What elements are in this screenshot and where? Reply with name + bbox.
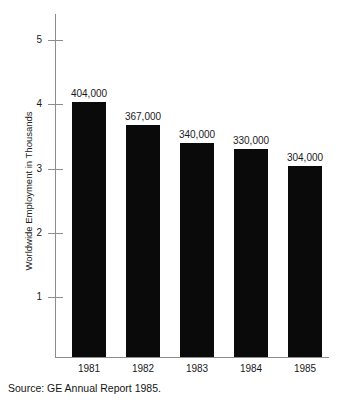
y-axis-tick-label: 1 — [12, 292, 42, 302]
y-axis-tick — [48, 104, 63, 105]
bar-value-label: 330,000 — [224, 135, 278, 146]
bar — [180, 143, 214, 357]
plot-area: 12345 404,000367,000340,000330,000304,00… — [0, 0, 344, 403]
source-note: Source: GE Annual Report 1985. — [8, 382, 161, 394]
bar-value-label: 304,000 — [278, 152, 332, 163]
bar — [72, 102, 106, 357]
bar-value-label: 404,000 — [62, 88, 116, 99]
y-axis-tick-label: 5 — [12, 35, 42, 45]
y-axis-tick — [48, 233, 63, 234]
y-axis-tick — [48, 40, 63, 41]
x-axis-tick-label: 1981 — [64, 363, 114, 374]
bar — [126, 125, 160, 357]
y-axis-tick — [48, 169, 63, 170]
bar-chart-figure: 12345 404,000367,000340,000330,000304,00… — [0, 0, 344, 403]
x-axis-line — [55, 357, 329, 358]
y-axis-line — [55, 14, 56, 358]
bar-value-label: 367,000 — [116, 111, 170, 122]
x-axis-tick-label: 1985 — [280, 363, 330, 374]
bar — [288, 166, 322, 357]
bar — [234, 149, 268, 357]
x-axis-tick-label: 1984 — [226, 363, 276, 374]
y-axis-title: Worldwide Employment in Thousands — [24, 91, 34, 291]
x-axis-tick-label: 1983 — [172, 363, 222, 374]
bar-value-label: 340,000 — [170, 129, 224, 140]
x-axis-tick-label: 1982 — [118, 363, 168, 374]
y-axis-tick — [48, 297, 63, 298]
